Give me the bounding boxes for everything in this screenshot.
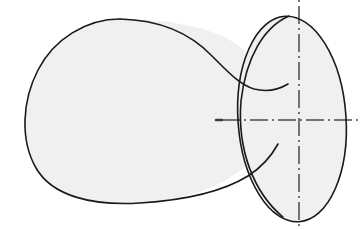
boss-fill xyxy=(231,12,353,225)
technical-drawing-canvas xyxy=(0,0,360,230)
drawing-svg xyxy=(0,0,360,230)
solid-fill-group xyxy=(25,12,353,225)
